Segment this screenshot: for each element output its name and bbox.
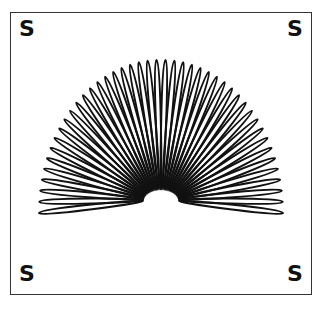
- slinky-illustration: [0, 0, 323, 311]
